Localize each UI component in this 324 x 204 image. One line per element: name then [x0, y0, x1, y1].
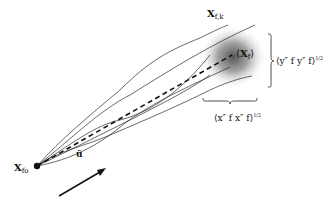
label-y-spread: ⟨y″ f y″ f⟩1/2: [276, 56, 323, 66]
label-velocity-u: ū: [76, 150, 83, 159]
trajectory-3: [37, 55, 210, 166]
label-x-spread: ⟨x″ f x″ f⟩1/2: [214, 113, 261, 123]
velocity-arrow: [59, 168, 106, 196]
dispersion-diagram: [0, 0, 324, 204]
x-spread-brace: [203, 98, 257, 104]
origin-point: [34, 163, 40, 169]
label-mean-x-f: ⟨Xf⟩: [236, 49, 254, 61]
y-spread-brace: [268, 34, 274, 87]
label-x-fo: Xfo: [14, 163, 29, 175]
label-x-fk: Xf,k: [207, 9, 224, 21]
endpoint-scatter-cloud: [199, 25, 267, 89]
mean-trajectory-dashed: [37, 55, 232, 166]
